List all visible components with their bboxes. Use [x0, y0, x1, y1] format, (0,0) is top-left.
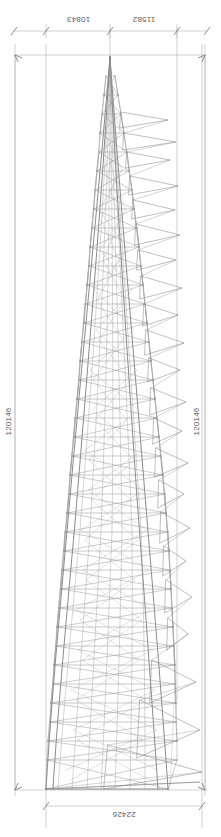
dimension-arrowheads [11, 27, 210, 810]
drawing-sheet: 10843 11582 120146 120146 22426 [0, 0, 221, 837]
dimension-label-right-vertical: 120146 [192, 394, 201, 450]
dimension-label-left-vertical: 120146 [4, 394, 13, 450]
dimension-label-top-right: 11582 [111, 15, 177, 24]
truss-structure [45, 56, 202, 789]
truss-elevation-drawing [0, 0, 221, 837]
fin-connectors [46, 120, 202, 789]
dimension-label-top-left: 10843 [47, 15, 110, 24]
dimension-label-bottom: 22426 [46, 810, 202, 819]
